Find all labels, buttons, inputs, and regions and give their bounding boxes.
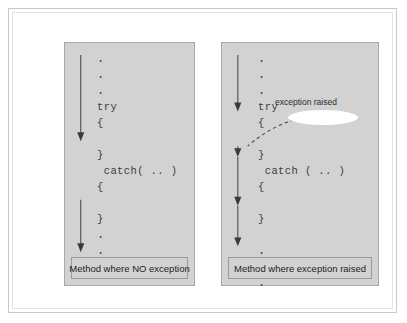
code-line <box>258 227 345 243</box>
code-line: try <box>97 99 177 115</box>
code-block-no-exception: ...try{ } catch( .. ){ }... <box>97 51 177 275</box>
code-line: . <box>258 67 345 83</box>
exception-raised-label: exception raised <box>275 97 337 107</box>
code-line: catch ( .. ) <box>258 163 345 179</box>
code-line <box>97 195 177 211</box>
panel-no-exception: ...try{ } catch( .. ){ }... Method where… <box>64 42 195 286</box>
code-line: . <box>258 51 345 67</box>
code-block-exception-raised: ...try{ } catch ( .. ){ } ... <box>258 51 345 291</box>
exception-raised-callout: exception raised <box>270 97 366 125</box>
code-line: } <box>97 147 177 163</box>
code-line: { <box>97 115 177 131</box>
code-line: } <box>258 147 345 163</box>
panel-exception-raised: ...try{ } catch ( .. ){ } ... exception … <box>221 42 379 286</box>
code-line: { <box>97 179 177 195</box>
code-line: . <box>97 83 177 99</box>
panel-caption-no-exception: Method where NO exception <box>71 257 188 279</box>
code-line <box>258 131 345 147</box>
code-line: catch( .. ) <box>97 163 177 179</box>
code-line: . <box>97 67 177 83</box>
code-line: } <box>97 211 177 227</box>
code-line <box>258 195 345 211</box>
code-line: } <box>258 211 345 227</box>
panel-caption-exception-raised: Method where exception raised <box>228 257 372 279</box>
callout-ellipse-shape <box>288 110 358 125</box>
code-line: . <box>97 227 177 243</box>
code-line: . <box>97 51 177 67</box>
code-line <box>97 131 177 147</box>
code-line: { <box>258 179 345 195</box>
